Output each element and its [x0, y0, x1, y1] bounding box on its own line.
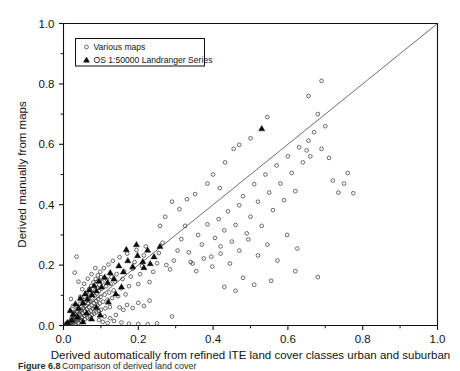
legend-label: Various maps: [94, 42, 146, 52]
x-axis-title: Derived automatically from refined ITE l…: [51, 349, 451, 361]
y-tick-label: 0.8: [39, 78, 55, 90]
figure-caption: Figure 6.8Comparison of derived land cov…: [18, 361, 197, 371]
x-tick-label: 0.8: [355, 333, 371, 345]
plot-background: [0, 0, 460, 371]
figure-container: 0.00.20.40.60.81.00.00.20.40.60.81.0Deri…: [0, 0, 460, 371]
y-tick-label: 0.6: [39, 138, 55, 150]
x-tick-label: 1.0: [430, 333, 446, 345]
y-tick-label: 1.0: [39, 18, 55, 30]
legend-label: OS 1:50000 Landranger Series: [94, 55, 213, 65]
x-tick-label: 0.2: [130, 333, 146, 345]
x-tick-label: 0.4: [205, 333, 222, 345]
y-tick-label: 0.4: [39, 199, 56, 211]
x-tick-label: 0.0: [56, 333, 72, 345]
y-tick-label: 0.2: [39, 259, 55, 271]
legend: Various mapsOS 1:50000 Landranger Series: [76, 39, 213, 67]
y-axis-title: Derived manually from maps: [16, 101, 28, 248]
caption-prefix: Figure 6.8: [18, 361, 61, 371]
x-tick-label: 0.6: [280, 333, 296, 345]
scatter-plot: 0.00.20.40.60.81.00.00.20.40.60.81.0Deri…: [0, 0, 460, 371]
caption-body: Comparison of derived land cover: [62, 361, 197, 371]
y-tick-label: 0.0: [39, 320, 55, 332]
